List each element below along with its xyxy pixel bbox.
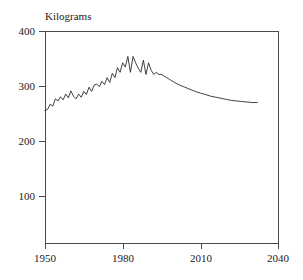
- chart-container: Kilograms 400 300 200 100 1950 1980 2010…: [0, 0, 303, 280]
- data-line-kilograms: [45, 56, 257, 110]
- series-layer: [0, 0, 303, 280]
